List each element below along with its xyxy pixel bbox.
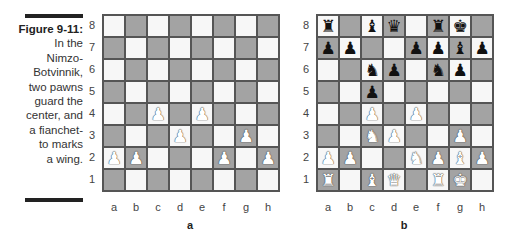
white-pawn-icon: ♟: [128, 150, 143, 167]
square-c3: [147, 125, 169, 147]
square-d7: [383, 37, 405, 59]
black-knight-icon: ♞: [430, 62, 445, 79]
square-d5: [383, 81, 405, 103]
white-rook-icon: ♜: [430, 172, 445, 189]
square-h5: [257, 81, 279, 103]
square-g4: [235, 103, 257, 125]
square-a5: [103, 81, 125, 103]
square-b7: ♟: [339, 37, 361, 59]
black-pawn-icon: ♟: [386, 62, 401, 79]
square-e3: [405, 125, 427, 147]
white-knight-icon: ♞: [408, 150, 423, 167]
square-f6: [213, 59, 235, 81]
white-bishop-icon: ♝: [364, 172, 379, 189]
square-h1: [257, 169, 279, 191]
square-g1: [235, 169, 257, 191]
square-b7: [125, 37, 147, 59]
black-rook-icon: ♜: [430, 18, 445, 35]
square-d4: [169, 103, 191, 125]
square-b4: [125, 103, 147, 125]
square-e2: [191, 147, 213, 169]
chessboard-a: ♟♟♟♟♟♟♟♟: [102, 14, 280, 192]
square-h2: ♟: [257, 147, 279, 169]
square-d2: [383, 147, 405, 169]
square-h1: [471, 169, 493, 191]
white-pawn-icon: ♟: [194, 106, 209, 123]
file-label: a: [317, 201, 339, 213]
square-f2: ♟: [213, 147, 235, 169]
square-g2: [235, 147, 257, 169]
square-d6: ♟: [383, 59, 405, 81]
caption-line: to marks: [0, 137, 83, 151]
black-king-icon: ♚: [452, 18, 467, 35]
square-c8: [147, 15, 169, 37]
rank-label: 1: [301, 173, 311, 185]
square-e5: [191, 81, 213, 103]
square-a2: ♟: [103, 147, 125, 169]
caption-line: a wing.: [0, 152, 83, 166]
square-c4: ♟: [361, 103, 383, 125]
square-f7: ♟: [427, 37, 449, 59]
square-e8: [405, 15, 427, 37]
rank-label: 8: [87, 19, 97, 31]
file-label: e: [405, 201, 427, 213]
square-c2: [361, 147, 383, 169]
white-queen-icon: ♛: [386, 172, 401, 189]
rank-label: 5: [87, 85, 97, 97]
white-pawn-icon: ♟: [408, 106, 423, 123]
square-f2: ♟: [427, 147, 449, 169]
square-a5: [317, 81, 339, 103]
square-f7: [213, 37, 235, 59]
caption-line: Botvinnik,: [0, 65, 83, 79]
rank-label: 4: [87, 107, 97, 119]
file-label: h: [257, 201, 279, 213]
square-b8: [339, 15, 361, 37]
square-h5: [471, 81, 493, 103]
square-h7: ♟: [471, 37, 493, 59]
square-g5: [449, 81, 471, 103]
square-e3: [191, 125, 213, 147]
rank-label: 7: [301, 41, 311, 53]
file-label: d: [383, 201, 405, 213]
black-pawn-icon: ♟: [408, 40, 423, 57]
square-d7: [169, 37, 191, 59]
square-e4: ♟: [191, 103, 213, 125]
square-b8: [125, 15, 147, 37]
caption-line: two pawns: [0, 80, 83, 94]
file-label: a: [103, 201, 125, 213]
rank-label: 2: [301, 151, 311, 163]
square-g2: ♝: [449, 147, 471, 169]
figure-caption: Figure 9-11: In the Nimzo- Botvinnik, tw…: [0, 22, 83, 166]
square-e7: [191, 37, 213, 59]
white-pawn-icon: ♟: [452, 128, 467, 145]
square-f1: ♜: [427, 169, 449, 191]
square-a7: ♟: [317, 37, 339, 59]
caption-line: center, and: [0, 108, 83, 122]
black-pawn-icon: ♟: [452, 62, 467, 79]
square-a3: [317, 125, 339, 147]
square-h2: ♟: [471, 147, 493, 169]
rank-label: 5: [301, 85, 311, 97]
square-f8: [213, 15, 235, 37]
square-d8: [169, 15, 191, 37]
square-h4: [257, 103, 279, 125]
square-c2: [147, 147, 169, 169]
rank-label: 1: [87, 173, 97, 185]
black-knight-icon: ♞: [364, 62, 379, 79]
white-knight-icon: ♞: [364, 128, 379, 145]
square-d8: ♛: [383, 15, 405, 37]
square-a6: [103, 59, 125, 81]
square-e8: [191, 15, 213, 37]
square-e1: [191, 169, 213, 191]
caption-line: guard the: [0, 94, 83, 108]
square-e7: ♟: [405, 37, 427, 59]
rank-label: 6: [87, 63, 97, 75]
square-b2: ♟: [339, 147, 361, 169]
file-label: c: [361, 201, 383, 213]
white-pawn-icon: ♟: [320, 150, 335, 167]
square-c5: ♟: [361, 81, 383, 103]
square-c1: [147, 169, 169, 191]
square-f5: [213, 81, 235, 103]
square-d3: ♟: [169, 125, 191, 147]
black-pawn-icon: ♟: [364, 84, 379, 101]
